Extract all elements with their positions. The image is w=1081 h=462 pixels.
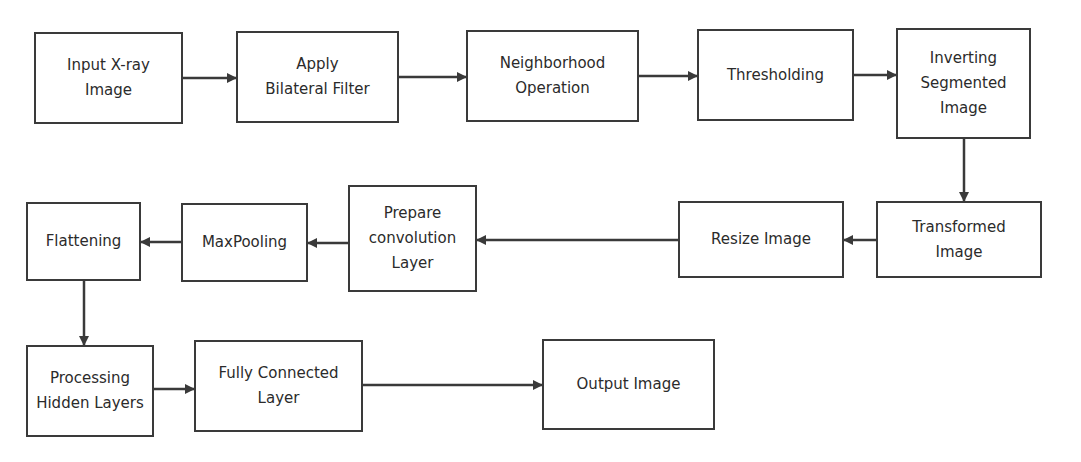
node-label: Fully Connected Layer: [218, 361, 338, 411]
node-label: MaxPooling: [202, 230, 287, 255]
node-label: Flattening: [46, 229, 122, 254]
node-label: Output Image: [577, 372, 681, 397]
node-label: Processing Hidden Layers: [36, 366, 144, 416]
node-prepare: Prepare convolution Layer: [348, 185, 477, 292]
node-label: Inverting Segmented Image: [920, 46, 1006, 121]
node-output: Output Image: [542, 339, 715, 430]
node-transformed: Transformed Image: [876, 201, 1042, 278]
node-label: Thresholding: [727, 63, 824, 88]
node-label: Prepare convolution Layer: [369, 201, 456, 276]
node-label: Transformed Image: [912, 215, 1005, 265]
node-inverting: Inverting Segmented Image: [896, 28, 1031, 139]
node-label: Input X-ray Image: [67, 53, 150, 103]
node-neighborhood: Neighborhood Operation: [466, 30, 639, 122]
node-input: Input X-ray Image: [34, 32, 183, 124]
node-fully: Fully Connected Layer: [194, 340, 363, 432]
node-resize: Resize Image: [678, 201, 844, 278]
node-hidden: Processing Hidden Layers: [26, 345, 154, 437]
node-bilateral: Apply Bilateral Filter: [236, 31, 399, 123]
node-maxpooling: MaxPooling: [181, 203, 308, 282]
node-label: Resize Image: [711, 227, 811, 252]
node-flattening: Flattening: [26, 202, 141, 281]
node-thresholding: Thresholding: [697, 29, 854, 121]
node-label: Neighborhood Operation: [500, 51, 606, 101]
node-label: Apply Bilateral Filter: [265, 52, 369, 102]
